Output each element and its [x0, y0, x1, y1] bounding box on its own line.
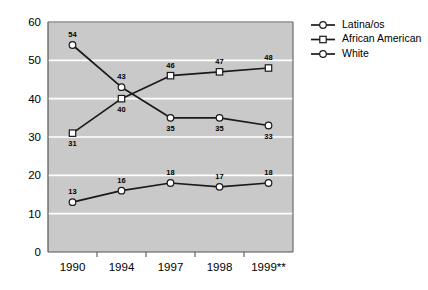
- legend-label: African American: [342, 32, 422, 44]
- chart-container: 605040302010019901994199719981999**13161…: [0, 0, 428, 290]
- x-tick-labels: 19901994199719981999**: [60, 252, 287, 273]
- line-chart: 605040302010019901994199719981999**13161…: [0, 0, 428, 290]
- legend-item-african_american[interactable]: African American: [311, 32, 422, 44]
- data-point-marker: [69, 42, 76, 49]
- data-point-label: 40: [117, 105, 125, 114]
- legend: Latina/osAfrican AmericanWhite: [311, 18, 422, 59]
- legend-label: Latina/os: [342, 18, 385, 30]
- data-point-label: 46: [166, 61, 174, 70]
- x-tick-label: 1998: [207, 261, 233, 273]
- y-tick-label: 0: [35, 246, 41, 258]
- data-point-label: 48: [264, 53, 272, 62]
- data-point-marker: [118, 95, 124, 101]
- data-point-label: 33: [264, 132, 272, 141]
- data-point-label: 18: [264, 168, 272, 177]
- x-tick-label: 1999**: [251, 261, 286, 273]
- x-tick-label: 1997: [158, 261, 184, 273]
- data-point-marker: [216, 115, 223, 122]
- y-tick-label: 20: [28, 169, 41, 181]
- data-point-label: 43: [117, 72, 125, 81]
- data-point-marker: [265, 65, 271, 71]
- data-point-label: 18: [166, 168, 174, 177]
- y-tick-label: 40: [28, 93, 41, 105]
- data-point-label: 47: [215, 57, 223, 66]
- data-point-label: 31: [68, 139, 76, 148]
- data-point-marker: [265, 180, 272, 187]
- data-point-label: 35: [215, 124, 223, 133]
- data-point-label: 17: [215, 172, 223, 181]
- y-tick-label: 10: [28, 208, 41, 220]
- legend-item-latinaos[interactable]: Latina/os: [311, 18, 385, 30]
- data-point-marker: [69, 199, 76, 206]
- y-tick-label: 60: [28, 16, 41, 28]
- x-tick-label: 1994: [109, 261, 135, 273]
- data-point-marker: [69, 130, 75, 136]
- data-point-marker: [118, 187, 125, 194]
- y-tick-label: 50: [28, 54, 41, 66]
- data-point-label: 16: [117, 176, 125, 185]
- legend-marker: [320, 36, 326, 42]
- legend-label: White: [342, 47, 369, 59]
- data-point-label: 35: [166, 124, 174, 133]
- data-point-marker: [167, 180, 174, 187]
- data-point-marker: [216, 69, 222, 75]
- data-point-marker: [216, 184, 223, 191]
- data-point-marker: [167, 72, 173, 78]
- data-point-marker: [265, 122, 272, 129]
- x-tick-label: 1990: [60, 261, 86, 273]
- data-point-label: 13: [68, 187, 76, 196]
- data-point-marker: [118, 84, 125, 91]
- legend-marker: [320, 51, 327, 58]
- legend-marker: [320, 22, 327, 29]
- legend-item-white[interactable]: White: [311, 47, 369, 59]
- y-tick-labels: 6050403020100: [28, 16, 41, 258]
- y-tick-label: 30: [28, 131, 41, 143]
- data-point-marker: [167, 115, 174, 122]
- data-point-label: 54: [68, 30, 77, 39]
